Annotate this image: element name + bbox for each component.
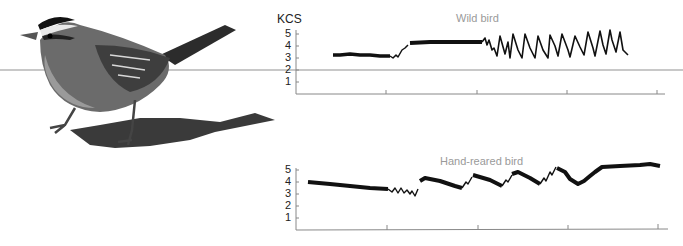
y-tick-3: 3 bbox=[277, 187, 291, 199]
sparrow-illustration bbox=[0, 0, 280, 160]
y-tick-2: 2 bbox=[277, 63, 291, 75]
y-tick-5: 5 bbox=[277, 163, 291, 175]
y-axis-unit-label: KCS bbox=[277, 12, 302, 26]
chart-title-wild-bird: Wild bird bbox=[456, 12, 499, 24]
hand-reared-bird-chart: Hand-reared bird 5 4 3 2 1 bbox=[270, 140, 683, 246]
y-tick-1: 1 bbox=[277, 211, 291, 223]
y-tick-5: 5 bbox=[277, 27, 291, 39]
chart-title-hand-reared-bird: Hand-reared bird bbox=[440, 155, 523, 167]
y-tick-3: 3 bbox=[277, 51, 291, 63]
bird-shadow bbox=[70, 113, 275, 148]
y-tick-1: 1 bbox=[277, 75, 291, 87]
y-tick-4: 4 bbox=[277, 175, 291, 187]
y-tick-4: 4 bbox=[277, 39, 291, 51]
y-tick-2: 2 bbox=[277, 199, 291, 211]
wild-bird-chart: KCS Wild bird 5 4 3 2 1 bbox=[270, 0, 683, 110]
